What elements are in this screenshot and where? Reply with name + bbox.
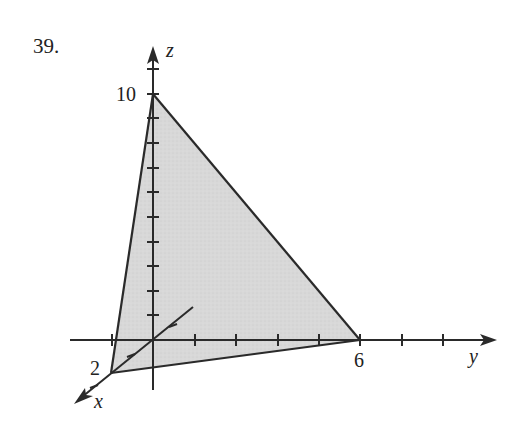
plane-diagram	[0, 0, 509, 430]
problem-number: 39.	[33, 36, 59, 57]
y-axis-label: y	[469, 346, 478, 366]
y-intercept-label: 6	[354, 350, 364, 370]
x-axis-label: x	[94, 391, 103, 411]
z-axis-label: z	[166, 40, 174, 60]
x-intercept-label: 2	[90, 358, 100, 378]
shaded-triangle	[111, 94, 360, 373]
z-intercept-label: 10	[116, 84, 136, 104]
